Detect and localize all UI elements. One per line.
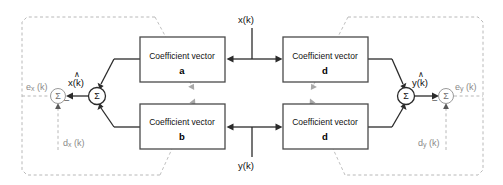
- xhat-label: x(k): [68, 77, 84, 88]
- desired-x-tail: (k): [72, 138, 85, 148]
- diagram-canvas: Coefficient vector a Coefficient vector …: [0, 0, 503, 185]
- sum-y-error-minus-sign: −: [432, 95, 438, 106]
- error-y-tail: (k): [464, 82, 477, 92]
- x-input-label: x(k): [238, 14, 254, 25]
- desired-y-label: dy (k): [418, 138, 440, 148]
- sum-y-main-symbol: Σ: [398, 91, 414, 101]
- yhat-label: y(k): [412, 77, 428, 88]
- summers-layer: [0, 0, 503, 185]
- sum-x-main-symbol: Σ: [89, 91, 105, 101]
- sum-y-error-symbol: Σ: [438, 91, 454, 101]
- sum-x-error-minus-sign: −: [64, 95, 70, 106]
- error-x-tail: (k): [35, 82, 48, 92]
- error-x-label: ex (k): [26, 82, 48, 92]
- desired-y-tail: (k): [427, 138, 440, 148]
- y-input-label: y(k): [238, 160, 254, 171]
- desired-x-label: dx (k): [63, 138, 85, 148]
- error-y-label: ey (k): [455, 82, 477, 92]
